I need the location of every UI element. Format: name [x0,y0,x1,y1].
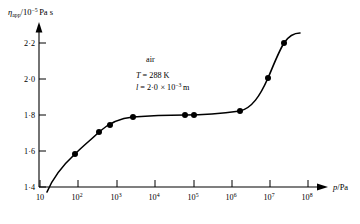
svg-text:ηapp/10−5Pa s: ηapp/10−5Pa s [8,7,53,18]
y-axis-title-subscript: app [12,12,20,18]
data-point [182,112,188,118]
y-tick-label-2-2: 2·2 [24,39,35,48]
x-tick-label-10e3: 103 [110,192,121,202]
x-axis-title-units: Pa [340,182,349,192]
y-axis-arrowhead [36,22,43,33]
x-tick-label-10e6: 106 [225,192,236,202]
y-axis-title: ηapp/10−5Pa s [8,7,53,18]
data-point [96,129,102,135]
x-tick-label-10e4: 104 [148,192,159,202]
data-points [72,40,287,157]
data-point [107,122,113,128]
data-point [191,112,197,118]
x-tick-label-10e7: 107 [263,192,274,202]
y-axis-title-units: Pa s [39,7,53,17]
x-tick-label-10e2: 102 [71,192,82,202]
x-tick-label-10e5: 105 [187,192,198,202]
y-tick-label-1-6: 1·6 [24,147,35,156]
temperature-label: T = 288 K [136,71,170,80]
y-axis: 2·2 2·0 1·8 1·6 1·4 [24,22,46,192]
x-tick-label-10e1: 10 [36,193,44,202]
data-point [265,75,271,81]
viscosity-pressure-chart: 2·2 2·0 1·8 1·6 1·4 ηapp/10−5Pa s 10 102… [0,0,360,224]
x-axis-title: p/Pa [332,182,348,192]
svg-text:p/Pa: p/Pa [332,182,348,192]
data-curve [47,33,300,192]
annotation-block: air T = 288 K l = 2·0× 10−3m [136,55,190,92]
y-tick-label-1-8: 1·8 [24,111,35,120]
y-axis-title-exponent: −5 [31,7,37,13]
x-axis-arrowhead [317,184,328,191]
length-label: l = 2·0× 10−3m [136,82,190,92]
y-tick-label-1-4: 1·4 [24,183,35,192]
x-tick-label-10e8: 108 [301,192,312,202]
data-point [281,40,287,46]
data-point [72,151,78,157]
y-tick-label-2-0: 2·0 [24,75,35,84]
gas-label: air [146,55,155,64]
data-point [130,114,136,120]
data-point [237,108,243,114]
x-axis: 10 102 103 104 105 106 107 108 [36,180,328,202]
viscosity-curve-path [47,33,300,192]
y-axis-title-divider: /10 [21,7,32,17]
